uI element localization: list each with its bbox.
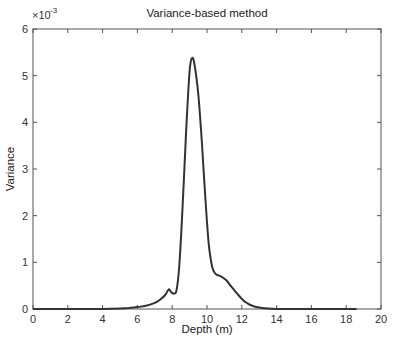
- chart-title: Variance-based method: [146, 7, 267, 19]
- chart-figure: Variance-based method ×10 -3 02468101214…: [0, 0, 396, 346]
- y-tick-label: 2: [22, 210, 28, 222]
- y-axis-label: Variance: [4, 147, 16, 192]
- x-axis-ticks: 02468101214161820: [30, 29, 387, 325]
- y-multiplier-base: ×10: [32, 9, 51, 21]
- plot-area-frame: [33, 29, 381, 309]
- x-tick-label: 20: [375, 313, 387, 325]
- y-tick-label: 1: [22, 256, 28, 268]
- y-tick-label: 0: [22, 303, 28, 315]
- variance-curve: [33, 58, 357, 309]
- x-tick-label: 16: [305, 313, 317, 325]
- x-tick-label: 12: [236, 313, 248, 325]
- x-tick-label: 8: [169, 313, 175, 325]
- y-tick-label: 3: [22, 163, 28, 175]
- x-tick-label: 4: [100, 313, 106, 325]
- x-tick-label: 14: [270, 313, 282, 325]
- y-multiplier-exponent: -3: [50, 6, 58, 15]
- x-axis-label: Depth (m): [181, 323, 232, 335]
- x-tick-label: 0: [30, 313, 36, 325]
- y-axis-ticks: 0123456: [22, 23, 381, 315]
- y-multiplier: ×10 -3: [32, 6, 58, 21]
- x-tick-label: 2: [65, 313, 71, 325]
- x-tick-label: 18: [340, 313, 352, 325]
- x-tick-label: 6: [134, 313, 140, 325]
- y-tick-label: 5: [22, 70, 28, 82]
- y-tick-label: 6: [22, 23, 28, 35]
- y-tick-label: 4: [22, 116, 28, 128]
